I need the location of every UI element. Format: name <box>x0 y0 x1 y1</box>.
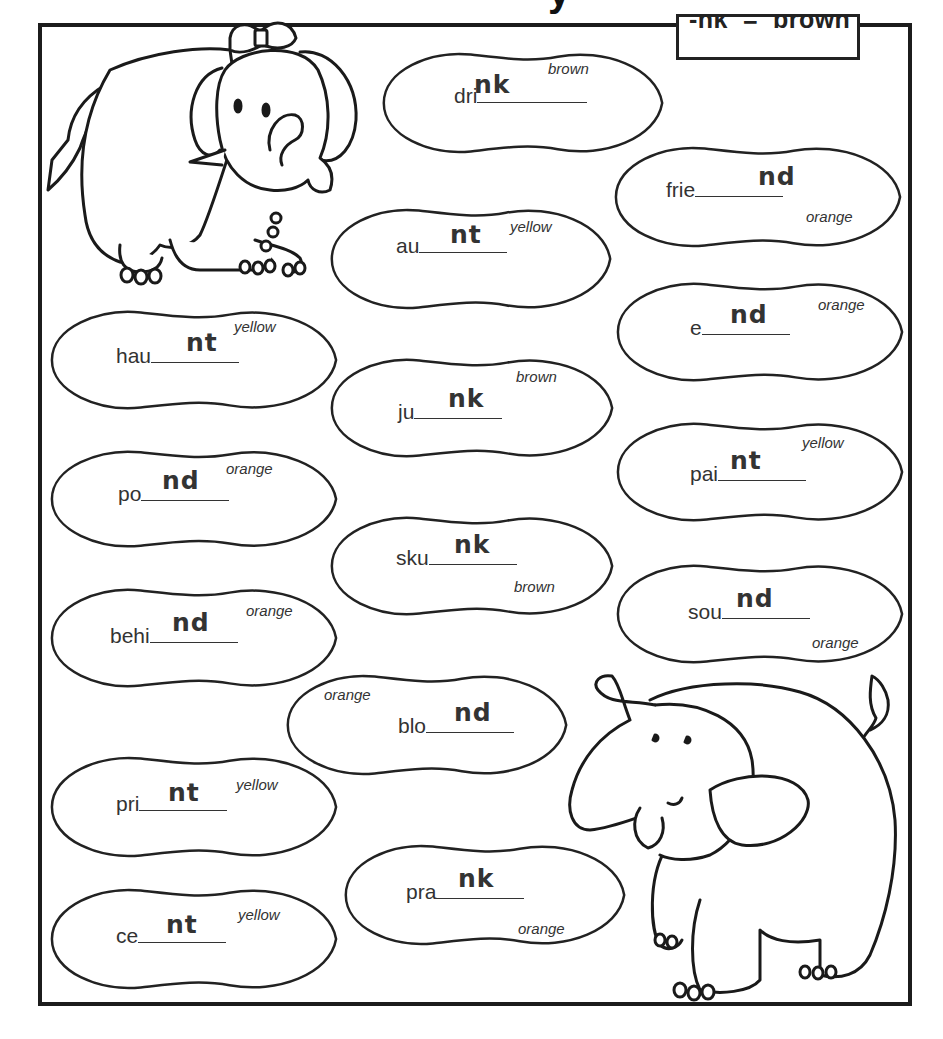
word-prefix: ju <box>398 400 414 423</box>
color-label: orange <box>324 686 371 703</box>
word-blob-pond[interactable]: pondorange <box>46 446 342 552</box>
word-blob-end[interactable]: endorange <box>612 278 908 386</box>
color-label: yellow <box>236 776 278 793</box>
word-prompt: hau <box>116 344 239 368</box>
word-prefix: sku <box>396 546 429 569</box>
word-blob-aunt[interactable]: auntyellow <box>326 204 616 314</box>
elephant-with-bow-icon <box>48 23 356 284</box>
word-blob-print[interactable]: printyellow <box>46 752 342 862</box>
answer-text: nd <box>736 584 774 613</box>
word-blob-paint[interactable]: paintyellow <box>612 418 908 526</box>
answer-text: nt <box>186 328 218 357</box>
answer-text: nd <box>758 162 796 191</box>
elephant-trunk-up-icon <box>570 676 896 1000</box>
answer-text: nk <box>458 864 494 893</box>
color-label: brown <box>516 368 557 385</box>
word-prefix: pra <box>406 880 436 903</box>
color-label: orange <box>518 920 565 937</box>
word-prefix: pri <box>116 792 139 815</box>
color-label: yellow <box>802 434 844 451</box>
word-blob-cent[interactable]: centyellow <box>46 884 342 994</box>
answer-text: nt <box>730 446 762 475</box>
word-prefix: ce <box>116 924 138 947</box>
word-prefix: hau <box>116 344 151 367</box>
color-label: orange <box>818 296 865 313</box>
answer-text: nd <box>454 698 492 727</box>
answer-text: nt <box>168 778 200 807</box>
answer-text: nd <box>172 608 210 637</box>
color-label: brown <box>514 578 555 595</box>
color-label: orange <box>246 602 293 619</box>
word-prefix: pai <box>690 462 718 485</box>
color-label: yellow <box>510 218 552 235</box>
word-prefix: behi <box>110 624 150 647</box>
word-blob-junk[interactable]: junkbrown <box>326 354 618 462</box>
word-blob-sound[interactable]: soundorange <box>612 560 908 668</box>
word-prefix: sou <box>688 600 722 623</box>
word-prefix: e <box>690 316 702 339</box>
word-prefix: po <box>118 482 141 505</box>
answer-text: nk <box>448 384 484 413</box>
answer-text: nd <box>162 466 200 495</box>
color-label: orange <box>226 460 273 477</box>
color-label: yellow <box>234 318 276 335</box>
answer-text: nt <box>450 220 482 249</box>
color-label: orange <box>806 208 853 225</box>
word-blob-friend[interactable]: friendorange <box>610 142 906 252</box>
answer-text: nt <box>166 910 198 939</box>
color-label: orange <box>812 634 859 651</box>
word-prefix: frie <box>666 178 695 201</box>
answer-text: nk <box>454 530 490 559</box>
color-label: brown <box>548 60 589 77</box>
answer-text: nd <box>730 300 768 329</box>
word-blob-prank[interactable]: prankorange <box>340 840 630 950</box>
word-prefix: blo <box>398 714 426 737</box>
color-label: yellow <box>238 906 280 923</box>
word-prefix: au <box>396 234 419 257</box>
word-blob-haunt[interactable]: hauntyellow <box>46 306 342 414</box>
answer-text: nk <box>474 70 510 99</box>
word-blob-skunk[interactable]: skunkbrown <box>326 512 618 620</box>
